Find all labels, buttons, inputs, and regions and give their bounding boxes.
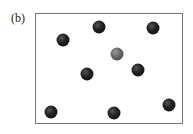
particle-dot [108, 107, 121, 120]
particle-dot [57, 34, 70, 47]
particle-dot [81, 68, 94, 81]
particle-dot [132, 64, 145, 77]
particle-dot [45, 106, 58, 119]
highlighted-particle-dot [111, 48, 124, 61]
particle-dot [93, 21, 106, 34]
particle-dot [163, 99, 176, 112]
figure-label: (b) [11, 11, 25, 26]
particle-dot [147, 22, 160, 35]
